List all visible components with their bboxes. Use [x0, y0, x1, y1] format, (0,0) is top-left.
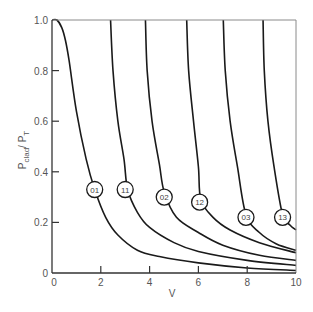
mode-label-lp01: 01 — [87, 182, 103, 198]
mode-label-text: 03 — [242, 213, 251, 222]
mode-curves — [52, 19, 296, 270]
curve-lp11 — [111, 20, 296, 265]
x-tick-label: 4 — [147, 277, 153, 288]
plot: 0246810 00.20.40.60.81.0 011102120313 V … — [0, 0, 313, 312]
mode-label-text: 02 — [160, 193, 169, 202]
y-tick-label: 0.8 — [34, 66, 48, 77]
x-tick-label: 8 — [244, 277, 250, 288]
mode-label-lp02: 02 — [156, 189, 172, 205]
mode-labels: 011102120313 — [87, 182, 291, 226]
y-tick-label: 1.0 — [34, 15, 48, 26]
y-tick-label: 0.6 — [34, 116, 48, 127]
y-tick-label: 0 — [42, 268, 48, 279]
y-axis-ticks: 00.20.40.60.81.0 — [34, 15, 59, 279]
mode-label-text: 01 — [90, 186, 99, 195]
mode-label-text: 12 — [195, 198, 204, 207]
mode-label-lp03: 03 — [238, 209, 254, 225]
x-tick-label: 0 — [51, 277, 57, 288]
mode-label-lp13: 13 — [275, 209, 291, 225]
y-tick-label: 0.4 — [34, 167, 48, 178]
y-tick-label: 0.2 — [34, 217, 48, 228]
mode-label-lp11: 11 — [117, 182, 133, 198]
mode-label-text: 11 — [121, 186, 130, 195]
y-axis-title: Pclad/ PT — [17, 131, 31, 170]
x-tick-label: 2 — [98, 277, 104, 288]
mode-label-text: 13 — [278, 213, 287, 222]
mode-label-lp12: 12 — [192, 194, 208, 210]
x-axis-title: V — [169, 288, 176, 299]
x-tick-label: 6 — [196, 277, 202, 288]
x-tick-label: 10 — [290, 277, 302, 288]
curve-lp13 — [263, 20, 296, 230]
